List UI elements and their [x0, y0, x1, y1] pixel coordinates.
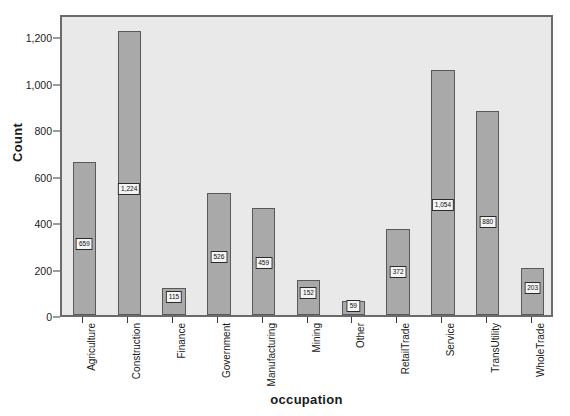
bar[interactable]: 880 — [476, 111, 499, 315]
x-axis-title: occupation — [60, 392, 553, 407]
bar-value-label: 659 — [76, 238, 93, 250]
y-tick-mark — [53, 131, 60, 132]
bar[interactable]: 372 — [386, 229, 409, 315]
bar[interactable]: 115 — [162, 288, 185, 315]
x-tick-label: Service — [445, 323, 456, 356]
x-tick-label: Mining — [311, 323, 322, 352]
y-tick-label: 600 — [34, 172, 52, 184]
bar-value-label: 115 — [166, 291, 182, 303]
bar[interactable]: 1,054 — [431, 70, 454, 315]
bar-value-label: 526 — [210, 251, 227, 263]
x-tick-label: Construction — [131, 323, 142, 379]
x-tick-label: Manufacturing — [266, 323, 277, 386]
bar-value-label: 203 — [524, 282, 541, 294]
bars-container: 6591,224115526459152593721,054880203 — [62, 17, 551, 315]
bar[interactable]: 459 — [252, 208, 275, 315]
x-tick-label: Finance — [176, 323, 187, 359]
bar[interactable]: 59 — [342, 301, 365, 315]
x-tick-label: Government — [221, 323, 232, 378]
y-tick-label: 0 — [46, 311, 52, 323]
x-tick-label: Agriculture — [86, 323, 97, 371]
x-tick-label: Other — [355, 323, 366, 348]
x-tick-label: WholeTrade — [535, 323, 546, 377]
y-tick-label: 400 — [34, 218, 52, 230]
bar-value-label: 1,224 — [118, 183, 140, 195]
bar-value-label: 152 — [300, 287, 317, 299]
bar-chart: Count 02004006008001,0001,200 6591,22411… — [0, 0, 570, 416]
y-tick-mark — [53, 224, 60, 225]
bar[interactable]: 203 — [521, 268, 544, 315]
bar-value-label: 1,054 — [432, 199, 454, 211]
y-tick-label: 1,200 — [26, 32, 52, 44]
bar-value-label: 880 — [479, 216, 496, 228]
y-axis-ticks: 02004006008001,0001,200 — [0, 0, 60, 416]
y-tick-mark — [53, 317, 60, 318]
bar-value-label: 59 — [347, 300, 360, 312]
bar[interactable]: 1,224 — [118, 31, 141, 315]
y-tick-mark — [53, 38, 60, 39]
y-tick-mark — [53, 84, 60, 85]
x-tick-label: TransUtility — [490, 323, 501, 373]
bar[interactable]: 659 — [73, 162, 96, 315]
x-axis-labels: AgricultureConstructionFinanceGovernment… — [60, 323, 553, 393]
y-tick-label: 200 — [34, 265, 52, 277]
bar-value-label: 372 — [390, 266, 407, 278]
plot-area: 6591,224115526459152593721,054880203 — [60, 15, 553, 317]
y-tick-mark — [53, 177, 60, 178]
y-tick-label: 800 — [34, 125, 52, 137]
y-tick-mark — [53, 270, 60, 271]
x-tick-label: RetailTrade — [400, 323, 411, 374]
bar[interactable]: 526 — [207, 193, 230, 315]
y-tick-label: 1,000 — [26, 79, 52, 91]
bar-value-label: 459 — [255, 257, 272, 269]
bar[interactable]: 152 — [297, 280, 320, 315]
